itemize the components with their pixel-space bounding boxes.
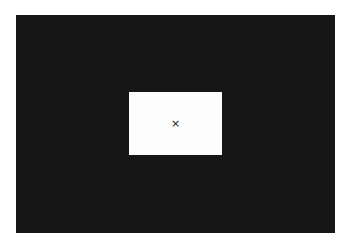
close-icon[interactable]: × xyxy=(169,117,183,131)
modal-dialog: × xyxy=(129,92,222,155)
